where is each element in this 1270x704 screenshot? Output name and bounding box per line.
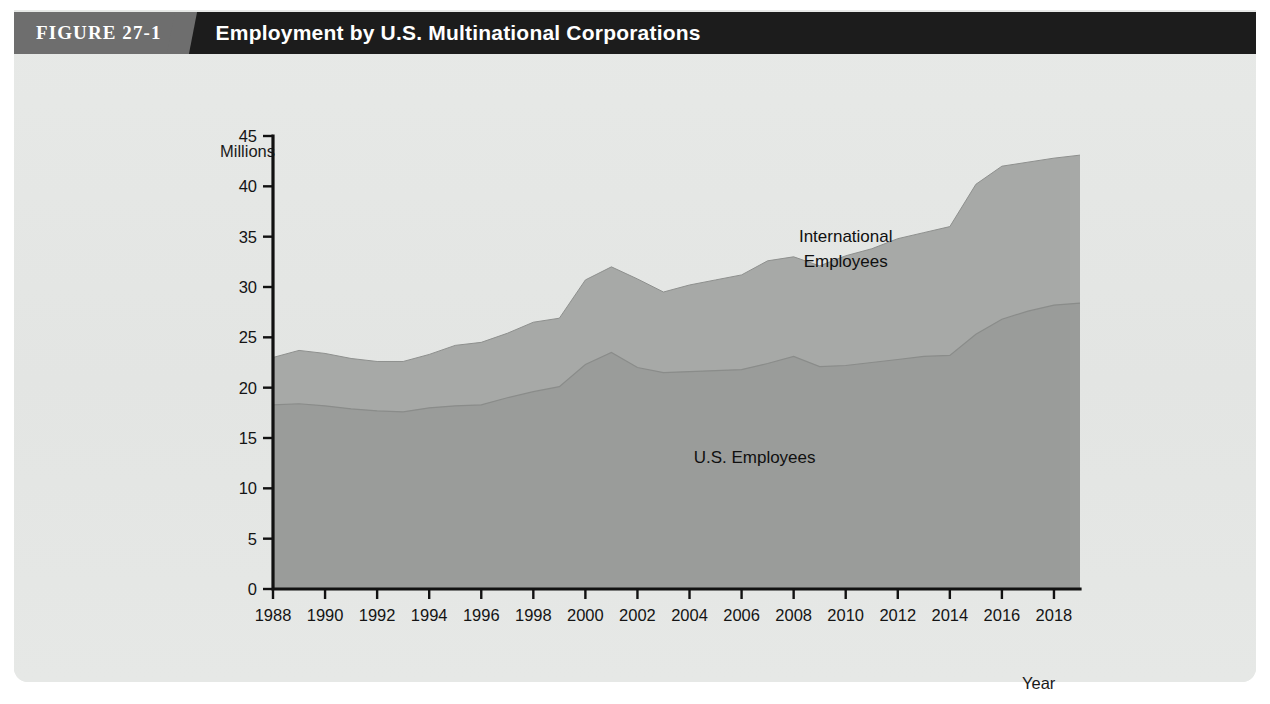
us-employees-label: U.S. Employees [694, 448, 816, 467]
x-tick-label: 2014 [931, 606, 968, 624]
figure-title-bar: FIGURE 27-1 Employment by U.S. Multinati… [14, 12, 1256, 54]
area-chart-svg: 0510152025303540451988199019921994199619… [14, 54, 1256, 682]
x-tick-label: 1994 [411, 606, 448, 624]
x-tick-label: 1990 [307, 606, 344, 624]
figure-root: FIGURE 27-1 Employment by U.S. Multinati… [0, 0, 1270, 704]
figure-number-badge: FIGURE 27-1 [14, 12, 182, 54]
x-tick-label: 1996 [463, 606, 500, 624]
figure-number-text: FIGURE 27-1 [36, 22, 162, 44]
y-tick-label: 40 [239, 177, 257, 195]
x-tick-label: 2018 [1036, 606, 1073, 624]
y-tick-label: 10 [239, 479, 257, 497]
x-tick-label: 2012 [879, 606, 916, 624]
y-tick-label: 5 [248, 530, 257, 548]
x-tick-label: 2004 [671, 606, 708, 624]
x-tick-label: 2016 [984, 606, 1021, 624]
y-tick-label: 0 [248, 580, 257, 598]
chart-container: Millions Year 05101520253035404519881990… [14, 54, 1256, 682]
x-tick-label: 2006 [723, 606, 760, 624]
x-tick-label: 1992 [359, 606, 396, 624]
x-tick-label: 1998 [515, 606, 552, 624]
x-tick-label: 2000 [567, 606, 604, 624]
x-tick-label: 2002 [619, 606, 656, 624]
international-employees-label-line2: Employees [804, 252, 888, 271]
y-tick-label: 45 [239, 127, 257, 145]
y-tick-label: 15 [239, 429, 257, 447]
y-tick-label: 30 [239, 278, 257, 296]
figure-title: Employment by U.S. Multinational Corpora… [182, 12, 701, 54]
y-tick-label: 35 [239, 228, 257, 246]
y-tick-label: 25 [239, 328, 257, 346]
chart-areas [273, 155, 1080, 589]
international-employees-label-line1: International [799, 227, 893, 246]
y-tick-label: 20 [239, 379, 257, 397]
x-tick-label: 1988 [255, 606, 292, 624]
x-tick-label: 2010 [827, 606, 864, 624]
x-tick-label: 2008 [775, 606, 812, 624]
